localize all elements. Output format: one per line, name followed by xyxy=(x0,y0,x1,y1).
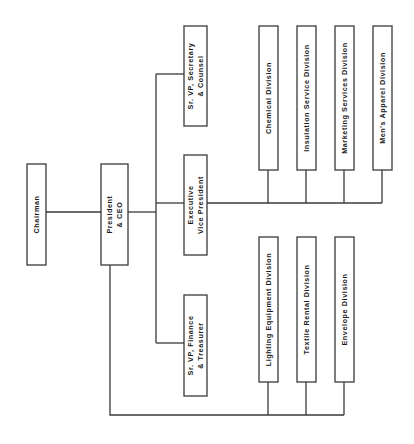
org-node-evp: ExecutiveVice President xyxy=(184,155,207,255)
org-node-label: Chairman xyxy=(32,196,41,234)
org-node-label: President xyxy=(105,195,114,233)
org-node-svp-secretary: Sr. VP, Secretary& Counsel xyxy=(184,26,207,126)
org-node-label: Textile Rental Division xyxy=(302,265,311,355)
org-node-label: Marketing Services Division xyxy=(340,42,349,154)
org-node-mens-apparel: Men's Apparel Division xyxy=(373,26,392,170)
org-node-label: Vice President xyxy=(196,176,205,234)
org-node-label: & Counsel xyxy=(196,56,205,97)
org-node-chemical: Chemical Division xyxy=(259,26,278,170)
org-node-label: & Treasurer xyxy=(196,322,205,369)
org-node-lighting: Lighting Equipment Division xyxy=(259,237,278,382)
org-node-label: Lighting Equipment Division xyxy=(264,253,273,367)
org-node-envelope: Envelope Division xyxy=(335,237,354,382)
org-node-label: Chemical Division xyxy=(264,62,273,134)
org-node-chairman: Chairman xyxy=(27,164,46,265)
org-node-marketing: Marketing Services Division xyxy=(335,26,354,170)
org-node-label: Sr. VP, Secretary xyxy=(186,43,195,110)
org-node-label: Executive xyxy=(186,186,195,225)
org-node-svp-finance: Sr. VP, Finance& Treasurer xyxy=(184,295,207,396)
org-node-label: Sr. VP, Finance xyxy=(186,315,195,375)
connectors xyxy=(46,74,382,415)
org-node-label: & CEO xyxy=(115,202,124,228)
org-node-label: Insulation Service Division xyxy=(302,44,311,152)
nodes: ChairmanPresident& CEOSr. VP, Secretary&… xyxy=(27,26,392,396)
org-node-insulation: Insulation Service Division xyxy=(297,26,316,170)
org-node-president: President& CEO xyxy=(101,164,128,265)
org-chart: ChairmanPresident& CEOSr. VP, Secretary&… xyxy=(0,0,414,444)
org-node-label: Envelope Division xyxy=(340,273,349,345)
org-node-textile: Textile Rental Division xyxy=(297,237,316,382)
org-node-label: Men's Apparel Division xyxy=(378,52,387,144)
